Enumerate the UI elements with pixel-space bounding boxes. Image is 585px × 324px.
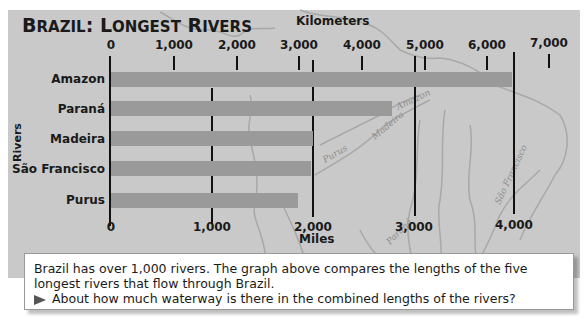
caption-line-1: Brazil has over 1,000 rivers. The graph … — [34, 261, 528, 276]
svg-text:Purus: Purus — [320, 143, 349, 166]
bar-purus — [111, 193, 298, 208]
caption-line-2: longest rivers that flow through Brazil. — [34, 276, 274, 291]
km-tick — [486, 56, 488, 70]
km-tick — [173, 56, 175, 70]
km-tick-label: 0 — [107, 38, 115, 52]
km-tick-label: 1,000 — [155, 38, 193, 52]
caption-question: About how much waterway is there in the … — [34, 291, 516, 306]
bar-sao-francisco — [111, 161, 311, 176]
category-label: Amazon — [51, 72, 105, 86]
km-tick — [548, 54, 550, 68]
km-tick — [298, 56, 300, 70]
top-axis-title: Kilometers — [296, 14, 369, 28]
mile-gridline — [513, 52, 515, 214]
chart-title: BRAZIL: LONGEST RIVERS — [22, 14, 252, 36]
km-tick-label: 4,000 — [343, 38, 381, 52]
y-axis-title: Rivers — [11, 123, 24, 162]
bar-parana — [111, 101, 392, 116]
km-tick — [361, 56, 363, 70]
mile-tick — [211, 210, 213, 220]
question-text: About how much waterway is there in the … — [52, 291, 516, 306]
category-label: Paraná — [58, 102, 105, 116]
mile-tick-label: 4,000 — [495, 218, 533, 232]
km-tick-label: 3,000 — [280, 38, 318, 52]
category-label: Madeira — [50, 132, 105, 146]
category-label: Purus — [66, 193, 105, 207]
mile-tick-label: 2,000 — [294, 220, 332, 234]
km-tick-label: 7,000 — [530, 36, 568, 50]
bar-amazon — [111, 72, 512, 87]
arrow-right-icon — [34, 295, 46, 305]
km-tick-label: 6,000 — [468, 38, 506, 52]
km-tick — [236, 56, 238, 70]
bottom-axis-title: Miles — [299, 232, 334, 246]
km-tick — [424, 56, 426, 70]
bar-madeira — [111, 131, 313, 146]
km-tick-label: 2,000 — [218, 38, 256, 52]
caption-box: Brazil has over 1,000 rivers. The graph … — [24, 253, 574, 310]
mile-tick-label: 1,000 — [193, 220, 231, 234]
mile-tick-label: 0 — [107, 220, 115, 234]
mile-tick-label: 3,000 — [395, 220, 433, 234]
category-label: São Francisco — [12, 162, 105, 176]
svg-text:São Francisco: São Francisco — [493, 143, 530, 206]
km-tick-label: 5,000 — [406, 38, 444, 52]
